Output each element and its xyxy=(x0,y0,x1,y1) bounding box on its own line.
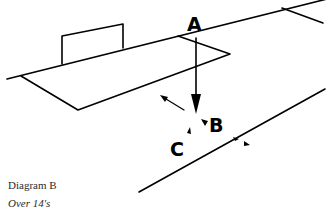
diagram-title: Diagram B xyxy=(8,179,57,191)
marker-line xyxy=(244,141,250,146)
arrow-a-head xyxy=(191,94,201,114)
pitch-marking-lower xyxy=(139,89,325,192)
goal-line xyxy=(7,0,327,79)
label-a: A xyxy=(187,13,202,35)
marker-c xyxy=(187,127,191,134)
label-b: B xyxy=(209,114,223,136)
pitch-marking-right xyxy=(282,8,323,23)
arrow-back-shaft xyxy=(166,99,184,110)
marker-b xyxy=(201,119,208,126)
label-c: C xyxy=(170,138,184,160)
diagram-subtitle: Over 14's xyxy=(8,197,50,209)
arrow-back-head xyxy=(160,95,168,102)
